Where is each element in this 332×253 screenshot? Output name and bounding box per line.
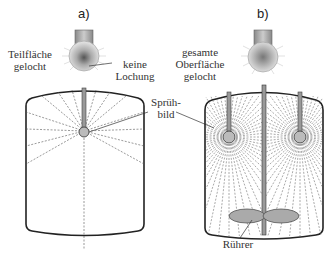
spray-ball-b-right — [294, 131, 306, 143]
caption-no-perforation: keine Lochung — [112, 58, 158, 82]
agitator-blade-left — [229, 209, 265, 223]
diagram-canvas — [0, 0, 332, 253]
spray-ball-a — [79, 127, 89, 137]
caption-full-perforated: gesamte Oberfläche gelocht — [170, 46, 230, 82]
spray-pattern-label: Sprüh- bild — [146, 96, 186, 120]
nozzle-detail-full-icon — [241, 30, 285, 74]
agitator-blade-right — [263, 209, 299, 223]
panel-a-label: a) — [78, 6, 90, 21]
nozzle-detail-partial-icon — [62, 30, 112, 71]
agitator-label: Rührer — [214, 238, 262, 250]
tank-a — [26, 88, 144, 250]
spray-ball-b-left — [223, 131, 235, 143]
panel-b-label: b) — [257, 6, 269, 21]
leader-line-spray-a — [89, 112, 148, 132]
caption-partial-perforated: Teilfläche gelocht — [2, 48, 58, 72]
tank-b — [205, 85, 323, 239]
